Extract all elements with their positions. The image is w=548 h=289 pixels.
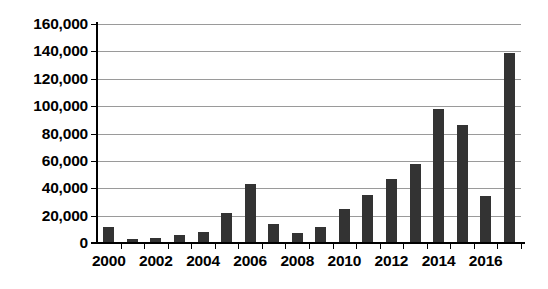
y-axis-tick-mark [91,106,97,107]
x-axis-tick-mark [215,244,216,249]
y-axis-tick-mark [91,216,97,217]
x-axis-tick-mark [497,244,498,249]
x-axis-tick-mark [121,244,122,249]
y-axis-tick-label: 120,000 [33,70,88,88]
bar [245,184,256,243]
x-axis-tick-label: 2012 [375,252,409,270]
x-axis-line [91,242,525,244]
y-axis-tick-mark [91,161,97,162]
gridline [97,24,521,25]
x-axis-tick-label: 2010 [327,252,361,270]
y-axis-tick-label: 80,000 [42,125,88,143]
bar [103,227,114,243]
x-axis-tick-mark [144,244,145,249]
x-axis-tick-mark [309,244,310,249]
y-axis-tick-label: 100,000 [33,97,88,115]
x-axis-label-group: 200020022004200620082010201220142016 [0,252,548,280]
x-axis-tick-mark [262,244,263,249]
x-axis-tick-mark [380,244,381,249]
x-axis-tick-label: 2016 [469,252,503,270]
y-axis-tick-mark [91,79,97,80]
x-axis-tick-label: 2014 [422,252,456,270]
bar [386,179,397,243]
x-axis-tick-mark [191,244,192,249]
y-axis-tick-mark [91,24,97,25]
bar [221,213,232,243]
bar [410,164,421,243]
plot-area [97,24,521,243]
x-axis-tick-mark [238,244,239,249]
y-axis-tick-mark [91,51,97,52]
bar [504,53,515,243]
y-axis-tick-mark [91,134,97,135]
x-axis-tick-mark [285,244,286,249]
bar [480,196,491,243]
x-axis-tick-mark [403,244,404,249]
y-axis-tick-label: 140,000 [33,42,88,60]
x-axis-tick-label: 2008 [280,252,314,270]
gridline [97,51,521,52]
gridline [97,79,521,80]
y-axis-tick-label: 0 [80,234,88,252]
x-axis-tick-mark [474,244,475,249]
x-axis-tick-label: 2000 [92,252,126,270]
x-axis-tick-mark [333,244,334,249]
bar [315,227,326,243]
y-axis-tick-mark [91,243,97,244]
x-axis-tick-mark [427,244,428,249]
x-axis-tick-label: 2004 [186,252,220,270]
x-axis-tick-mark [356,244,357,249]
bar [339,209,350,243]
bar [362,195,373,243]
bar [433,109,444,243]
y-axis-tick-label: 160,000 [33,15,88,33]
x-axis-tick-mark [450,244,451,249]
y-axis-tick-mark [91,188,97,189]
y-axis-tick-label: 60,000 [42,152,88,170]
gridline [97,106,521,107]
y-axis-tick-label: 40,000 [42,179,88,197]
x-axis-tick-label: 2002 [139,252,173,270]
x-axis-tick-mark [521,244,522,249]
bar [268,224,279,243]
y-axis-tick-label: 20,000 [42,207,88,225]
x-axis-tick-label: 2006 [233,252,267,270]
bar [457,125,468,243]
y-axis-label-group: 020,00040,00060,00080,000100,000120,0001… [0,0,92,289]
bar-chart: 020,00040,00060,00080,000100,000120,0001… [0,0,548,289]
x-axis-tick-mark [168,244,169,249]
